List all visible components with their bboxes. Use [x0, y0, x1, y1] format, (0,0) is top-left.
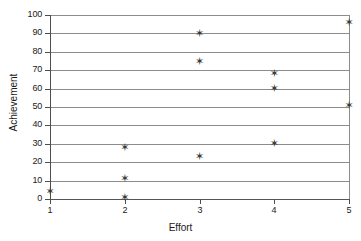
gridline: [50, 15, 349, 16]
plot-right-border: [349, 15, 350, 200]
gridline: [50, 70, 349, 71]
x-tick-label: 4: [264, 205, 284, 215]
x-tick-label: 1: [40, 205, 60, 215]
x-tick-label: 3: [190, 205, 210, 215]
y-tick-label: 20: [32, 157, 42, 166]
gridline: [50, 52, 349, 53]
gridline: [50, 162, 349, 163]
y-tick-label: 40: [32, 120, 42, 129]
y-axis-label: Achievement: [8, 38, 19, 168]
y-tick-label: 30: [32, 139, 42, 148]
gridline: [50, 33, 349, 34]
y-tick-label: 80: [32, 47, 42, 56]
y-tick-label: 50: [32, 102, 42, 111]
x-tick-label: 2: [115, 205, 135, 215]
x-axis-label: Effort: [0, 222, 361, 233]
gridline: [50, 181, 349, 182]
y-tick-label: 0: [37, 194, 42, 203]
scatter-chart: 0102030405060708090100 12345 ✶✶✶✶✶✶✶✶✶✶✶…: [0, 0, 361, 241]
gridline: [50, 89, 349, 90]
gridline: [50, 144, 349, 145]
y-axis-line: [50, 15, 51, 200]
x-tick-label: 5: [339, 205, 359, 215]
y-tick-label: 60: [32, 84, 42, 93]
x-axis-line: [50, 199, 350, 200]
y-tick-label: 70: [32, 65, 42, 74]
y-tick-label: 90: [32, 28, 42, 37]
y-tick-label: 100: [28, 10, 42, 19]
gridline: [50, 107, 349, 108]
gridline: [50, 125, 349, 126]
y-tick-label: 10: [32, 176, 42, 185]
